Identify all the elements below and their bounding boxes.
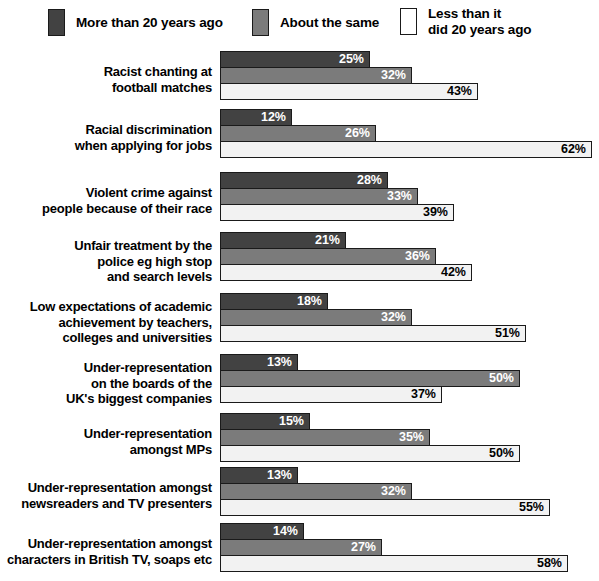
bar-value-label: 18% — [297, 295, 327, 308]
bar[interactable]: 12% — [220, 109, 292, 126]
bar-value-label: 42% — [441, 266, 471, 279]
bar-stack: 13%50%37% — [220, 354, 520, 402]
bar-value-label: 62% — [561, 143, 591, 156]
bar-stack: 14%27%58% — [220, 523, 568, 571]
bar[interactable]: 32% — [220, 309, 412, 326]
legend-swatch-icon — [252, 9, 269, 36]
bar[interactable]: 15% — [220, 413, 310, 430]
bar[interactable]: 50% — [220, 445, 520, 462]
bar-value-label: 21% — [315, 234, 345, 247]
category-label: Violent crime against people because of … — [0, 185, 212, 216]
bar-value-label: 36% — [405, 250, 435, 263]
bar-value-label: 50% — [489, 372, 519, 385]
category-label: Under-representation amongst characters … — [0, 536, 212, 567]
bar[interactable]: 25% — [220, 51, 370, 68]
bar[interactable]: 42% — [220, 264, 472, 281]
bar-stack: 28%33%39% — [220, 172, 454, 220]
bar-value-label: 26% — [345, 127, 375, 140]
bar-value-label: 15% — [279, 415, 309, 428]
bar[interactable]: 18% — [220, 293, 328, 310]
chart-legend: More than 20 years agoAbout the sameLess… — [0, 0, 599, 46]
bar[interactable]: 32% — [220, 483, 412, 500]
bar-value-label: 32% — [381, 485, 411, 498]
category-label: Racist chanting at football matches — [0, 64, 212, 95]
bar-stack: 15%35%50% — [220, 413, 520, 461]
legend-swatch-icon — [400, 8, 417, 35]
bar-value-label: 50% — [489, 447, 519, 460]
bar-value-label: 13% — [267, 469, 297, 482]
bar-value-label: 43% — [447, 85, 477, 98]
bar-stack: 25%32%43% — [220, 51, 478, 99]
legend-item-label: More than 20 years ago — [76, 15, 223, 31]
bar-stack: 18%32%51% — [220, 293, 526, 341]
bar-value-label: 37% — [411, 388, 441, 401]
bar-value-label: 58% — [537, 557, 567, 570]
bar-value-label: 55% — [519, 501, 549, 514]
bar[interactable]: 13% — [220, 467, 298, 484]
bar[interactable]: 13% — [220, 354, 298, 371]
bar-value-label: 28% — [357, 174, 387, 187]
bar[interactable]: 14% — [220, 523, 304, 540]
legend-item[interactable]: More than 20 years ago — [48, 9, 223, 36]
bar-value-label: 35% — [399, 431, 429, 444]
bar[interactable]: 50% — [220, 370, 520, 387]
category-label: Racial discrimination when applying for … — [0, 122, 212, 153]
bar-value-label: 51% — [495, 327, 525, 340]
bar-chart: Racist chanting at football matches25%32… — [0, 46, 599, 581]
category-label: Under-representation amongst MPs — [0, 426, 212, 457]
category-label: Unfair treatment by the police eg high s… — [0, 238, 212, 285]
bar[interactable]: 27% — [220, 539, 382, 556]
bar-value-label: 13% — [267, 356, 297, 369]
category-label: Under-representation amongst newsreaders… — [0, 480, 212, 511]
bar-stack: 21%36%42% — [220, 232, 472, 280]
category-label: Low expectations of academic achievement… — [0, 299, 212, 346]
bar-stack: 12%26%62% — [220, 109, 592, 157]
bar[interactable]: 51% — [220, 325, 526, 342]
bar[interactable]: 62% — [220, 141, 592, 158]
bar[interactable]: 39% — [220, 204, 454, 221]
bar-value-label: 39% — [423, 206, 453, 219]
bar-value-label: 32% — [381, 311, 411, 324]
category-label: Under-representation on the boards of th… — [0, 360, 212, 407]
bar[interactable]: 26% — [220, 125, 376, 142]
bar[interactable]: 21% — [220, 232, 346, 249]
legend-item[interactable]: About the same — [252, 9, 379, 36]
bar-value-label: 27% — [351, 541, 381, 554]
legend-item-label: About the same — [280, 15, 379, 31]
bar-value-label: 25% — [339, 53, 369, 66]
bar[interactable]: 55% — [220, 499, 550, 516]
bar[interactable]: 28% — [220, 172, 388, 189]
bar[interactable]: 32% — [220, 67, 412, 84]
bar[interactable]: 35% — [220, 429, 430, 446]
legend-item[interactable]: Less than it did 20 years ago — [400, 6, 531, 38]
bar-value-label: 14% — [273, 525, 303, 538]
bar-stack: 13%32%55% — [220, 467, 550, 515]
bar-value-label: 33% — [387, 190, 417, 203]
legend-swatch-icon — [48, 9, 65, 36]
bar[interactable]: 36% — [220, 248, 436, 265]
bar[interactable]: 58% — [220, 555, 568, 572]
bar[interactable]: 33% — [220, 188, 418, 205]
legend-item-label: Less than it did 20 years ago — [428, 6, 531, 38]
bar-value-label: 32% — [381, 69, 411, 82]
bar[interactable]: 43% — [220, 83, 478, 100]
bar[interactable]: 37% — [220, 386, 442, 403]
bar-value-label: 12% — [261, 111, 291, 124]
